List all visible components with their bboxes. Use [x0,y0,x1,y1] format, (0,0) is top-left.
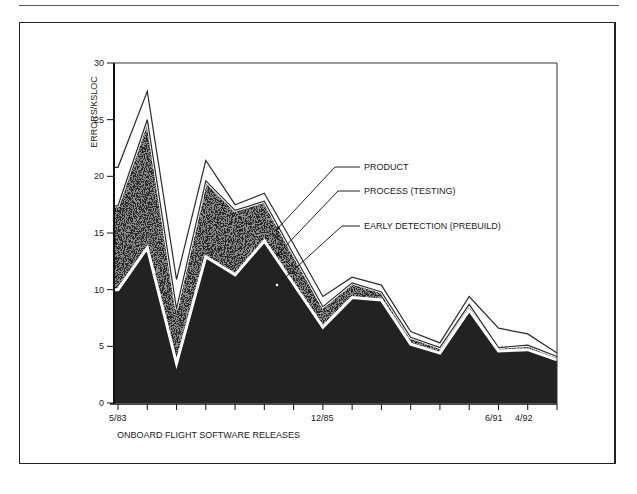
x-axis: 5/83 12/85 6/91 4/92 ONBOARD FLIGHT SOFT… [109,404,557,440]
legend-process: PROCESS (TESTING) [364,186,456,196]
x-label-6-91: 6/91 [485,413,503,423]
legend: PRODUCT PROCESS (TESTING) EARLY DETECTIO… [275,162,501,287]
process-leader-dot [276,252,279,255]
legend-product: PRODUCT [364,162,409,172]
product-leader-line [278,167,360,228]
y-tick-label: 30 [94,58,104,68]
early-leader-dot [275,283,279,287]
x-label-4-92: 4/92 [515,413,533,423]
y-tick-label: 15 [94,228,104,238]
x-label-12-85: 12/85 [311,413,334,423]
y-tick-label: 5 [99,341,104,351]
product-leader-dot [276,226,279,229]
y-tick-label: 0 [99,398,104,408]
errors-area-chart: 051015202530 ERRORS/KSLOC 5/83 12/85 6/9… [0,0,637,494]
y-axis-title: ERRORS/KSLOC [89,76,99,148]
y-tick-label: 20 [94,171,104,181]
x-axis-title: ONBOARD FLIGHT SOFTWARE RELEASES [117,430,300,440]
y-tick-label: 10 [94,285,104,295]
x-label-5-83: 5/83 [109,413,127,423]
legend-early-detection: EARLY DETECTION (PREBUILD) [364,221,501,231]
plot-areas [114,91,557,403]
